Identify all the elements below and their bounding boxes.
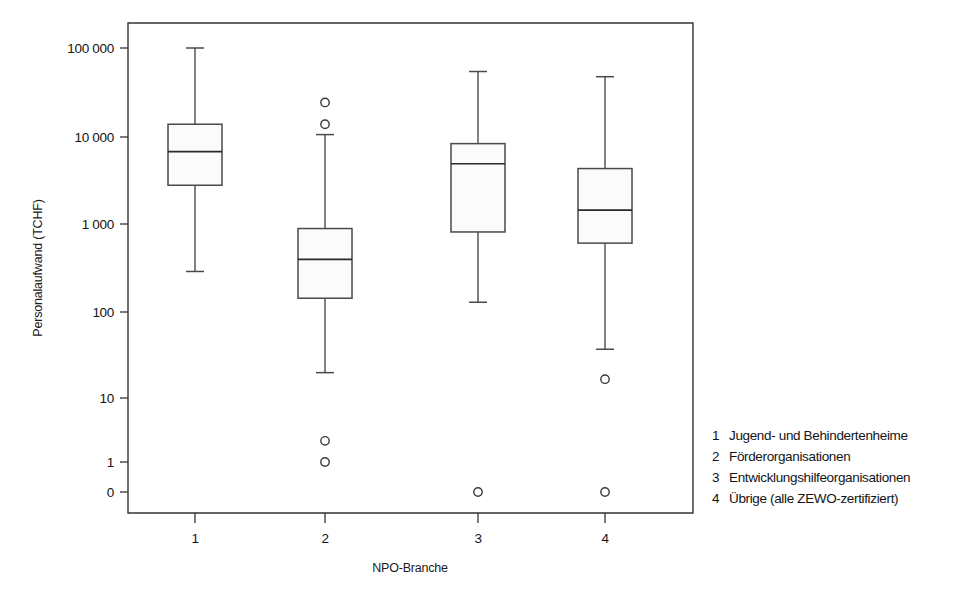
y-tick-label: 100 000 xyxy=(67,41,114,56)
box-iqr xyxy=(298,229,352,299)
legend-item-label: Entwicklungshilfeorganisationen xyxy=(729,470,910,485)
legend-item-label: Jugend- und Behindertenheime xyxy=(729,428,908,443)
legend-item-number: 3 xyxy=(712,470,720,485)
box-iqr xyxy=(451,144,505,232)
boxplot-figure: 01101001 00010 000100 000 1234 Personala… xyxy=(0,0,963,593)
x-tick-label: 3 xyxy=(474,531,481,546)
x-tick-label: 4 xyxy=(601,531,609,546)
y-tick-label: 1 000 xyxy=(82,217,114,232)
legend-item-number: 2 xyxy=(712,449,720,464)
y-tick-label: 100 xyxy=(92,305,114,320)
y-tick-label: 10 xyxy=(100,391,114,406)
y-axis-title: Personalaufwand (TCHF) xyxy=(31,199,45,336)
y-tick-label: 1 xyxy=(107,455,114,470)
x-tick-label: 1 xyxy=(191,531,198,546)
legend-item-label: Förderorganisationen xyxy=(729,449,850,464)
y-tick-label: 10 000 xyxy=(75,130,115,145)
x-axis-title: NPO-Branche xyxy=(372,561,448,575)
x-tick-label: 2 xyxy=(321,531,328,546)
legend-item-label: Übrige (alle ZEWO-zertifiziert) xyxy=(729,491,898,506)
box-iqr xyxy=(578,169,632,244)
legend-item-number: 4 xyxy=(712,491,720,506)
box-iqr xyxy=(168,124,222,185)
legend-item-number: 1 xyxy=(712,428,720,443)
y-tick-label: 0 xyxy=(107,485,114,500)
